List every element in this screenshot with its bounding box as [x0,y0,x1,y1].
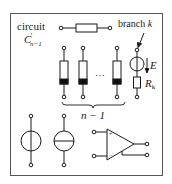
ellipsis: … [95,67,105,78]
count-label: n − 1 [81,109,105,121]
count-brace [62,102,125,108]
branch-label: branch k [118,18,153,29]
element-1 [60,46,68,99]
horizontal-resistor [59,24,112,32]
element-n-1 [113,46,121,99]
resistor-label-rk: Rk [144,77,156,91]
opamp-symbol [92,129,149,160]
resistor-rk [134,77,141,88]
circuit-diagram: circuit C′n−1 branch k [0,0,172,184]
source-label-e: E [149,59,157,71]
branch-pointer-arrow [138,33,145,48]
voltage-source-symbol [21,114,41,167]
title-symbol: C′n−1 [24,32,42,48]
current-source-symbol [54,114,74,167]
branch-k [130,48,149,99]
title-circuit: circuit [17,20,45,32]
element-2 [79,46,87,99]
